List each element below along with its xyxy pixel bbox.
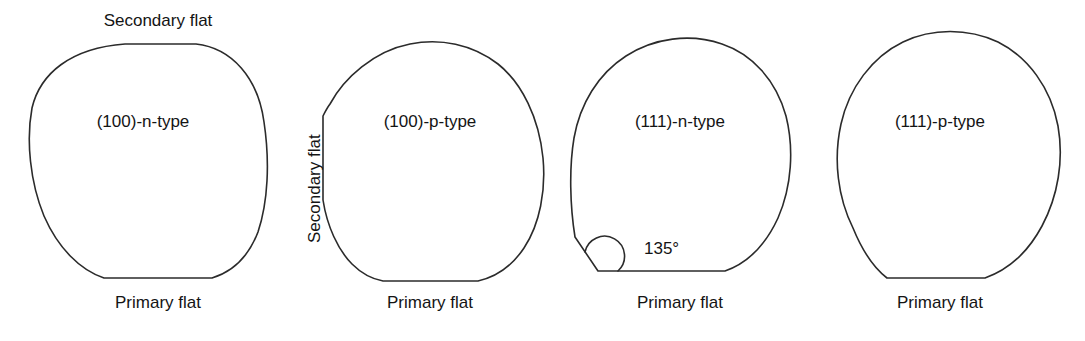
primary-flat-label-wafer-2: Primary flat bbox=[387, 294, 473, 311]
primary-flat-label-wafer-4: Primary flat bbox=[897, 294, 983, 311]
wafer-label-111-n-type: (111)-n-type bbox=[635, 113, 725, 130]
wafer-outline-111-p-type bbox=[837, 32, 1060, 279]
wafer-flat-diagram: (100)-n-type Secondary flat Primary flat… bbox=[0, 0, 1085, 341]
wafer-label-100-p-type: (100)-p-type bbox=[384, 113, 477, 130]
secondary-flat-label-side: Secondary flat bbox=[305, 134, 325, 243]
wafer-label-111-p-type: (111)-p-type bbox=[895, 113, 985, 130]
secondary-flat-label-top: Secondary flat bbox=[104, 12, 213, 29]
wafer-outline-100-p-type bbox=[323, 42, 544, 281]
wafer-outlines-svg bbox=[0, 0, 1085, 341]
angle-label-135: 135° bbox=[644, 240, 679, 257]
wafer-label-100-n-type: (100)-n-type bbox=[97, 113, 190, 130]
wafer-outline-100-n-type bbox=[29, 44, 267, 278]
primary-flat-label-wafer-3: Primary flat bbox=[637, 294, 723, 311]
primary-flat-label-wafer-1: Primary flat bbox=[115, 294, 201, 311]
